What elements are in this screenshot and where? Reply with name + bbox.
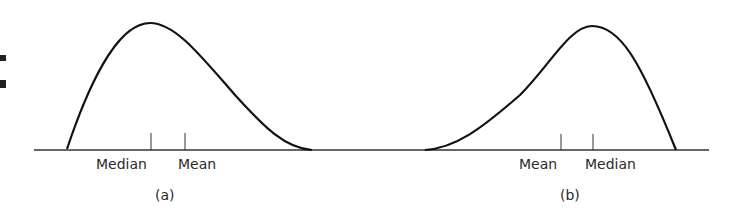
skewed-distributions-diagram (0, 0, 742, 216)
label-median-b: Median (585, 156, 636, 172)
edge-mark (0, 55, 6, 61)
caption-b: (b) (560, 187, 580, 203)
curve-b-left-skewed (425, 26, 676, 150)
label-median-a: Median (96, 156, 147, 172)
edge-mark (0, 80, 6, 88)
label-mean-a: Mean (178, 156, 216, 172)
label-mean-b: Mean (519, 156, 557, 172)
caption-a: (a) (155, 187, 175, 203)
curve-a-right-skewed (67, 23, 312, 150)
